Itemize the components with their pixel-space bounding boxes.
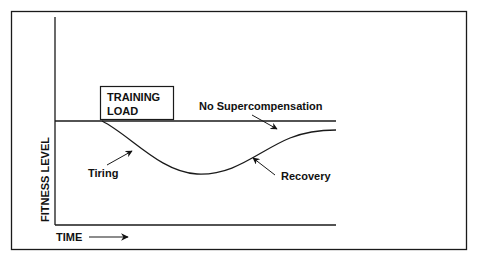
fitness-curve (102, 121, 336, 174)
no-supercompensation-label: No Supercompensation (199, 100, 323, 112)
x-axis-label: TIME (56, 231, 82, 243)
training-load-label-line2: LOAD (107, 105, 138, 117)
tiring-arrow (107, 151, 132, 165)
y-axis-label: FITNESS LEVEL (39, 137, 51, 222)
no-supercompensation-arrow (252, 115, 277, 129)
recovery-label: Recovery (281, 170, 331, 182)
tiring-label: Tiring (88, 167, 118, 179)
supercompensation-diagram: TRAINING LOAD No Supercompensation Tirin… (0, 0, 477, 260)
recovery-arrow (253, 158, 275, 175)
outer-frame (12, 12, 467, 250)
training-load-label-line1: TRAINING (107, 91, 160, 103)
